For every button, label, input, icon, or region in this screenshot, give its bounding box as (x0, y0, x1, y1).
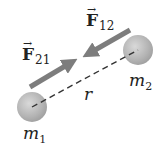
vector-arrow-icon: → (87, 4, 96, 15)
separation-label: r (84, 86, 92, 103)
force-f12-label: →F12 (86, 12, 114, 32)
force-f21-label: →F21 (22, 46, 50, 66)
gravitational-force-diagram: →F21 →F12 m2 r m1 (0, 0, 162, 150)
vector-arrow-icon: → (23, 38, 32, 49)
mass-2-label: m2 (129, 72, 152, 92)
mass-1-label: m1 (23, 125, 46, 145)
